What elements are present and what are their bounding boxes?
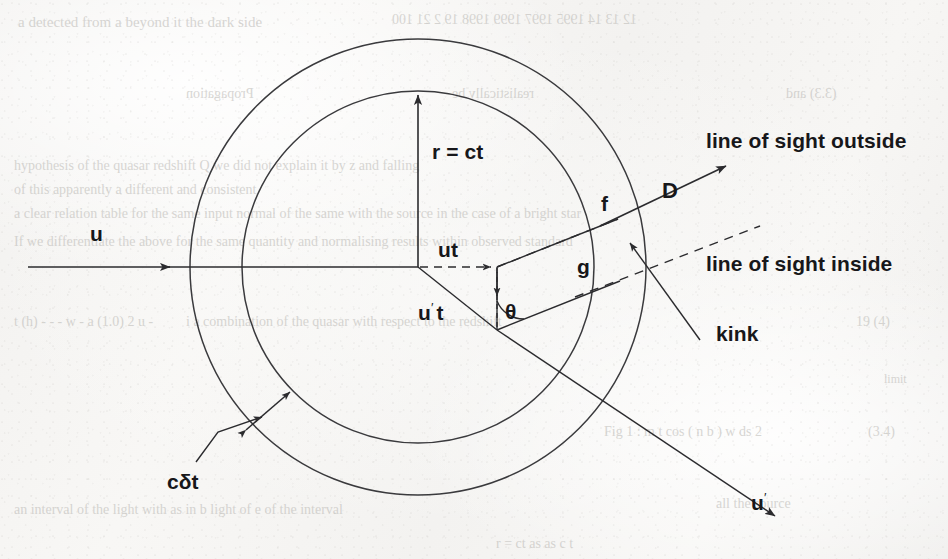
label-point-f: f [601, 192, 608, 216]
shell-thickness-double-arrow [246, 392, 290, 430]
label-uprime-t-prime-mark: ′ [431, 300, 433, 315]
label-velocity-u: u [90, 222, 103, 246]
label-uprime-t-base: u [418, 301, 431, 324]
label-uprime-velocity: u′ [751, 490, 766, 515]
label-uprime-t-tail: t [436, 301, 443, 324]
label-r-equals-ct: r = ct [432, 140, 483, 164]
label-uprime-t: u′t [418, 300, 443, 325]
label-theta: θ [505, 300, 516, 324]
label-ut: ut [438, 238, 458, 262]
kink-leader-arrow [630, 243, 700, 340]
label-point-g: g [577, 255, 590, 279]
uprime-velocity-arrow [497, 330, 775, 516]
label-uprime-prime-mark: ′ [764, 490, 766, 505]
label-line-of-sight-inside: line of sight inside [706, 252, 892, 276]
label-kink: kink [716, 322, 758, 346]
label-line-of-sight-outside: line of sight outside [706, 129, 906, 153]
diagram-drawing [0, 0, 948, 559]
label-c-delta-t: cδt [167, 470, 199, 494]
line-of-sight-outside-dashed-lead [418, 266, 499, 267]
figure-page: a detected from a beyond it the dark sid… [0, 0, 948, 559]
label-uprime-base: u [751, 491, 764, 514]
label-vector-D: D [662, 178, 678, 204]
